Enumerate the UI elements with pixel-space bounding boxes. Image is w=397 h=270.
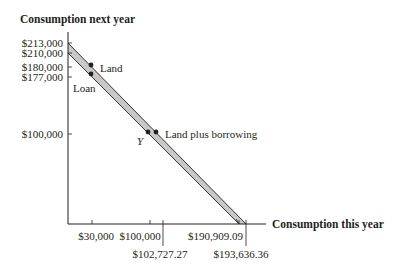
label-y: Y [137,135,145,147]
x-axis-title: Consumption this year [272,218,384,231]
point-loan [89,72,94,77]
x-label-190: $190,909.09 [188,230,244,242]
point-land [89,63,94,68]
x-label-193: $193,636.36 [214,248,270,260]
chart: Consumption next year Consumption this y… [0,0,397,270]
point-y [146,130,151,135]
y-label-210: $210,000 [22,47,64,59]
y-label-100: $100,000 [22,128,64,140]
x-label-102: $102,727.27 [133,248,189,260]
y-label-177: $177,000 [22,71,64,83]
label-land: Land [100,62,123,74]
point-land-plus-borrowing [154,130,159,135]
x-label-100: $100,000 [119,230,161,242]
label-land-plus-borrowing: Land plus borrowing [165,128,258,140]
x-label-30: $30,000 [78,230,114,242]
y-axis-title: Consumption next year [20,13,135,26]
label-loan: Loan [73,82,96,94]
